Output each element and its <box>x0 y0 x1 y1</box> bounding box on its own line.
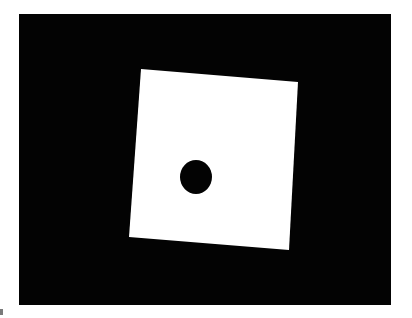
white-square <box>129 69 298 250</box>
corner-artifact <box>0 309 3 315</box>
die-scene <box>0 0 412 318</box>
black-dot <box>180 160 212 194</box>
